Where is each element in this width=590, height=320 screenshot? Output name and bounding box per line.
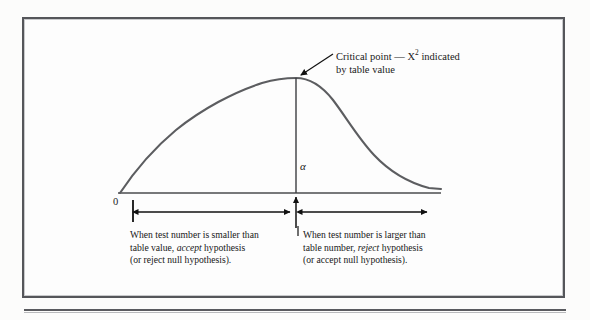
reject-note-line-2-suffix: hypothesis <box>379 242 422 253</box>
alpha-label: α <box>300 160 306 173</box>
callout-line-1-prefix: Critical point — X <box>336 51 415 62</box>
accept-note-line-1: When test number is smaller than <box>130 229 296 242</box>
accept-region-note: When test number is smaller than table v… <box>130 229 296 267</box>
chi-square-chart <box>0 0 590 320</box>
reject-region-note: When test number is larger than table nu… <box>303 229 473 267</box>
reject-keyword: reject <box>358 242 379 253</box>
accept-note-line-2-prefix: table value, <box>130 242 177 253</box>
reject-note-line-2-prefix: table number, <box>303 242 358 253</box>
origin-zero-label: 0 <box>113 196 118 208</box>
distribution-curve <box>120 78 441 193</box>
reject-note-line-3: (or accept null hypothesis). <box>303 254 473 267</box>
callout-line-2: by table value <box>336 63 460 76</box>
reject-note-line-2: table number, reject hypothesis <box>303 242 473 255</box>
callout-line-1-suffix: indicated <box>419 51 460 62</box>
page-bottom-rule <box>24 309 566 311</box>
accept-note-line-2-suffix: hypothesis <box>202 242 245 253</box>
accept-keyword: accept <box>177 242 202 253</box>
callout-leader-line <box>301 54 333 75</box>
reject-note-line-1: When test number is larger than <box>303 229 473 242</box>
callout-line-1: Critical point — X2 indicated <box>336 48 460 63</box>
critical-point-callout: Critical point — X2 indicated by table v… <box>336 48 460 76</box>
accept-note-line-3: (or reject null hypothesis). <box>130 254 296 267</box>
figure-page: Critical point — X2 indicated by table v… <box>0 0 590 320</box>
page-bottom-rule-secondary <box>24 312 566 313</box>
accept-note-line-2: table value, accept hypothesis <box>130 242 296 255</box>
